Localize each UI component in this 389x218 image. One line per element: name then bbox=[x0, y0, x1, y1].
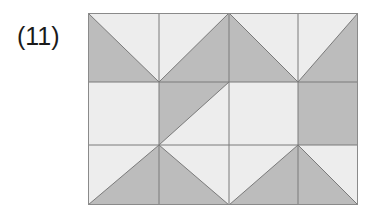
pattern-cell-r0-c2 bbox=[229, 13, 298, 82]
pattern-cell-r1-c0 bbox=[88, 82, 159, 145]
figure-root: (11) bbox=[0, 0, 389, 218]
pattern-cell-r2-c3 bbox=[298, 145, 358, 205]
pattern-cell-r0-c0 bbox=[88, 13, 159, 82]
pattern-cell-r1-c2 bbox=[229, 82, 298, 145]
figure-label: (11) bbox=[17, 22, 60, 50]
pattern-cell-r2-c0 bbox=[88, 145, 159, 205]
cell-solid bbox=[298, 82, 358, 145]
pattern-cell-r2-c2 bbox=[229, 145, 298, 205]
pattern-grid bbox=[88, 13, 358, 205]
pattern-grid-svg bbox=[88, 13, 358, 205]
cell-solid bbox=[88, 82, 159, 145]
pattern-cell-r2-c1 bbox=[159, 145, 229, 205]
pattern-cell-r1-c3 bbox=[298, 82, 358, 145]
pattern-cell-r0-c1 bbox=[159, 13, 229, 82]
cell-solid bbox=[229, 82, 298, 145]
pattern-cell-r1-c1 bbox=[159, 82, 229, 145]
pattern-cell-r0-c3 bbox=[298, 13, 358, 82]
